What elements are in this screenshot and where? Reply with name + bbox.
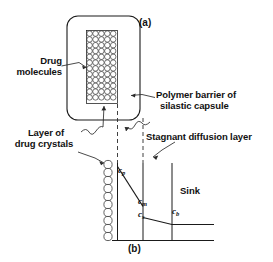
- cm-subscript: m: [142, 200, 147, 207]
- concentration-label-cs: cs: [138, 209, 145, 219]
- panel-a-tag: (a): [139, 17, 151, 28]
- label-stagnant-diffusion-layer: Stagnant diffusion layer: [146, 131, 252, 142]
- concentration-label-cp: cp: [118, 165, 125, 175]
- cs-subscript: s: [142, 213, 145, 220]
- label-layer-crystals-line1: Layer of: [12, 127, 80, 138]
- label-sink: Sink: [180, 185, 200, 196]
- label-polymer-barrier-line1: Polymer barrier of: [156, 89, 236, 100]
- label-layer-crystals-line2: drug crystals: [8, 138, 80, 149]
- concentration-label-cb: cb: [172, 206, 179, 216]
- cp-subscript: p: [122, 169, 125, 176]
- cb-subscript: b: [176, 210, 179, 217]
- label-drug-molecules-line1: Drug: [0, 55, 62, 66]
- label-polymer-barrier-line2: silastic capsule: [160, 100, 229, 111]
- label-drug-molecules-line2: molecules: [0, 66, 62, 77]
- panel-b-tag: (b): [128, 243, 141, 254]
- concentration-label-cm: cm: [138, 196, 147, 206]
